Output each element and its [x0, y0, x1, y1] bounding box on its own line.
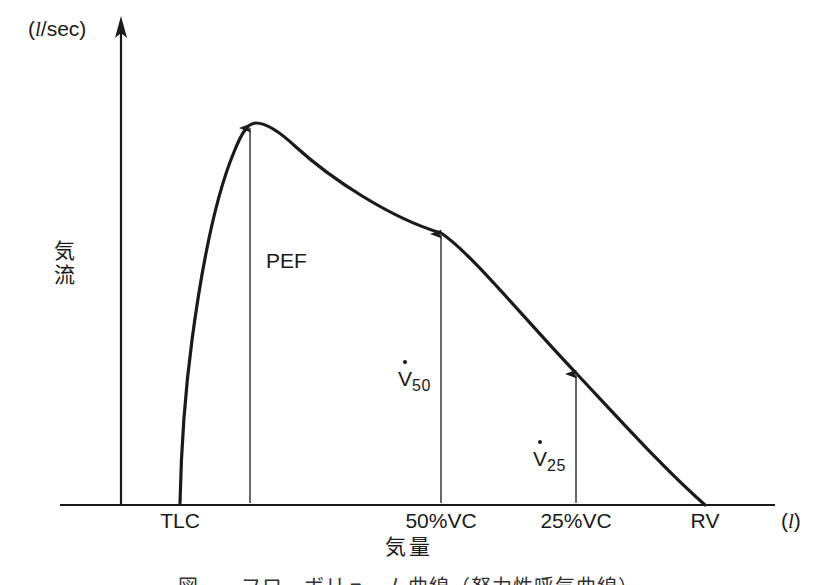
- x-axis-unit-label: (l): [781, 510, 801, 532]
- x-unit-prefix: (: [781, 509, 788, 532]
- v25-letter-with-dot: V: [533, 448, 547, 469]
- x-axis-title: 気量: [0, 537, 817, 558]
- overdot-icon: [403, 360, 407, 364]
- tick-label-tlc: TLC: [160, 510, 200, 531]
- plot-canvas: [0, 0, 817, 585]
- overdot-icon: [538, 440, 542, 444]
- v50-label: V50: [398, 368, 431, 394]
- tick-label-25pct-vc: 25%VC: [540, 510, 611, 531]
- tick-label-rv: RV: [691, 510, 720, 531]
- x-unit-suffix: ): [794, 509, 801, 532]
- figure-caption: 図 フローボリューム曲線（努力性呼気曲線）: [0, 576, 817, 585]
- y-unit-suffix: /sec): [41, 17, 87, 40]
- flow-volume-curve-figure: (l/sec) (l) 気流 気量 TLC 50%VC 25%VC RV PEF…: [0, 0, 817, 585]
- v25-label: V25: [533, 448, 566, 474]
- v25-letter: V: [533, 447, 547, 470]
- v50-letter: V: [398, 367, 412, 390]
- v50-letter-with-dot: V: [398, 368, 412, 389]
- v50-subscript: 50: [412, 377, 431, 394]
- y-axis-unit-label: (l/sec): [28, 18, 86, 40]
- tick-label-50pct-vc: 50%VC: [405, 510, 476, 531]
- flow-volume-curve-path: [180, 123, 705, 505]
- y-unit-prefix: (: [28, 17, 35, 40]
- y-axis-title: 気流: [52, 240, 73, 288]
- v25-subscript: 25: [547, 457, 566, 474]
- pef-label: PEF: [266, 250, 307, 271]
- y-axis: [115, 16, 127, 505]
